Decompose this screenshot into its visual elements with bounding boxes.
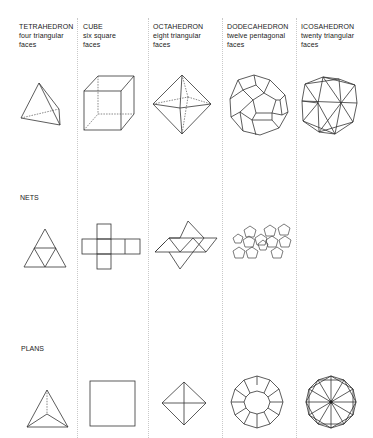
icosahedron-plan-figure [306,376,356,428]
cube-plan-figure [90,381,135,426]
icosahedron-solid-figure [302,77,357,134]
octahedron-net-figure [155,221,217,269]
platonic-solids-drawing [0,0,373,438]
tetrahedron-net-figure [24,229,66,267]
octahedron-solid-figure [153,75,211,134]
octahedron-plan-figure [162,382,206,425]
dodecahedron-solid-figure [230,75,288,135]
cube-net-figure [82,224,140,269]
tetrahedron-solid-figure [21,83,60,125]
dodecahedron-net-figure [233,224,291,258]
cube-solid-figure [84,76,134,130]
tetrahedron-plan-figure [27,390,68,427]
dodecahedron-plan-figure [231,376,283,428]
